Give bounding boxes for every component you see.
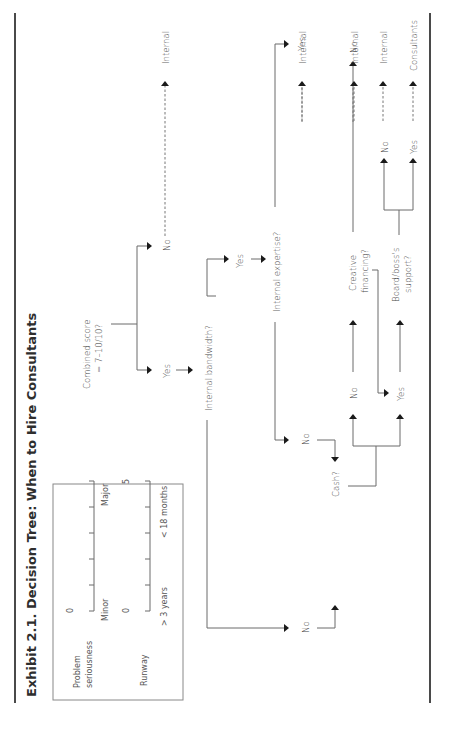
arrow-icon — [409, 158, 417, 163]
outcome-expertise-yes: Internal — [298, 31, 308, 64]
legend-scale2-min-label: > 3 years — [160, 587, 169, 626]
branch-combined-yes: Yes — [162, 364, 172, 378]
decision-tree-diagram: Exhibit 2.1. Decision Tree: When to Hire… — [0, 0, 452, 735]
exhibit-title: Exhibit 2.1. Decision Tree: When to Hire… — [24, 313, 39, 697]
outcome-board-no: Internal — [379, 31, 389, 64]
arrow-icon — [284, 436, 289, 444]
arrow-icon — [331, 457, 339, 462]
legend-scale1-label1: Problem — [73, 655, 82, 688]
node-internal-bandwidth: Internal bandwidth? — [204, 325, 214, 411]
legend-scale1-max-value: 5 — [0, 0, 5, 2]
node-board-support-line2: support? — [403, 255, 413, 293]
arrow-icon — [224, 255, 229, 263]
node-creative-financing-line1: Creative — [348, 255, 358, 291]
legend-scale1-label2: seriousness — [85, 641, 94, 688]
arrow-icon — [379, 81, 387, 86]
arrow-icon — [188, 366, 193, 374]
connector-no-to-cash-bottom — [317, 610, 335, 628]
outcome-creative-no: Internal — [350, 31, 360, 64]
arrow-icon — [396, 320, 404, 325]
connector-cash-split — [348, 419, 400, 486]
legend-scale1-min-value: 0 — [66, 608, 75, 613]
node-internal-expertise: Internal expertise? — [272, 232, 282, 312]
branch-cash-yes: Yes — [396, 387, 406, 401]
branch-bandwidth-yes: Yes — [235, 254, 245, 268]
arrow-icon — [284, 624, 289, 632]
arrow-icon — [147, 242, 152, 250]
branch-bandwidth-no: No — [301, 621, 311, 633]
connector-board-split — [384, 163, 413, 235]
legend-scale2-max-value: 5 — [122, 479, 131, 484]
outcome-combined-no: Internal — [161, 31, 171, 64]
arrow-icon — [396, 414, 404, 419]
arrow-icon — [380, 158, 388, 163]
branch-cash-no: No — [349, 387, 359, 399]
arrow-icon — [331, 605, 339, 610]
node-cash: Cash? — [331, 471, 341, 497]
arrow-icon — [349, 320, 357, 325]
node-combined-score-line1: Combined score — [82, 320, 92, 389]
legend-scale2-min-value: 0 — [122, 608, 131, 613]
arrow-icon — [350, 81, 358, 86]
node-combined-score-line2: = 7–10/10? — [94, 324, 104, 373]
connector-expertise-down — [275, 322, 284, 440]
connector-expertise-up — [275, 44, 284, 207]
arrow-icon — [384, 389, 389, 397]
legend-scale1-max-label: Major — [101, 483, 110, 506]
arrow-icon — [261, 255, 266, 263]
branch-combined-no: No — [162, 239, 172, 251]
combined-connector — [111, 246, 147, 370]
branch-board-yes: Yes — [409, 140, 419, 154]
legend-scale1-min-label: Minor — [101, 598, 110, 621]
arrow-icon — [147, 366, 152, 374]
connector-bandwidth-down — [207, 420, 284, 628]
connector-no-to-cash-top — [317, 440, 335, 457]
legend-scale2-label1: Runway — [140, 654, 149, 686]
arrow-icon — [409, 81, 417, 86]
arrow-icon — [161, 81, 169, 86]
connector-creative-yes — [372, 270, 384, 393]
arrow-icon — [298, 81, 306, 86]
node-board-support-line1: Board/boss's — [391, 248, 401, 302]
outcome-board-yes: Consultants — [409, 20, 419, 71]
branch-board-no: No — [380, 141, 390, 153]
legend-scale1-ticks — [89, 481, 94, 611]
legend-scale2-max-label: < 18 months — [160, 486, 169, 538]
legend-scale2-ticks — [145, 481, 150, 611]
connector-bandwidth-up — [207, 259, 224, 296]
arrow-icon — [284, 40, 289, 48]
arrow-icon — [349, 414, 357, 419]
branch-expertise-no: No — [301, 433, 311, 445]
node-creative-financing-line2: financing? — [360, 249, 370, 293]
